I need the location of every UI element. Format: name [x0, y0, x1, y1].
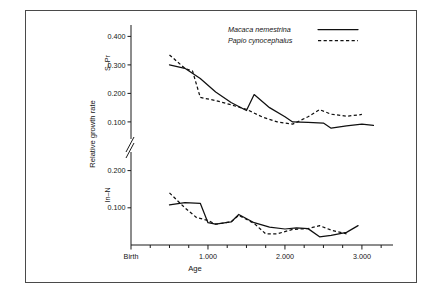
y-tick-label: 0.300	[108, 61, 126, 70]
x-tick-label: 3.000	[353, 252, 371, 261]
x-tick-label: 1.000	[199, 252, 217, 261]
legend-label-1: Papio cynocephalus	[228, 36, 293, 45]
y-tick-label: 0.100	[108, 118, 126, 127]
y-tick-label: 0.200	[108, 89, 126, 98]
y-tick-label: 0.200	[108, 166, 126, 175]
axis-break-marker	[126, 137, 134, 158]
y-tick-label: 0.400	[108, 32, 126, 41]
legend-label-0: Macaca nemestrina	[228, 25, 291, 34]
y-tick-label: 0.100	[108, 203, 126, 212]
tick-labels: 0.4000.3000.2000.1000.2000.100Birth1.000…	[108, 32, 371, 261]
x-axis-title: Age	[188, 264, 202, 273]
lower-panel-label: In–N	[103, 187, 112, 202]
series-dashed	[169, 193, 346, 234]
series-dashed	[169, 55, 361, 124]
x-tick-label: Birth	[124, 252, 139, 261]
growth-rate-chart: Relative growth rate S–Pr In–N 0.4000.30…	[0, 0, 440, 293]
data-series	[169, 55, 373, 237]
series-solid	[169, 65, 373, 128]
axes	[128, 25, 394, 250]
x-tick-label: 2.000	[276, 252, 294, 261]
y-axis-title: Relative growth rate	[88, 100, 97, 168]
legend: Macaca nemestrina Papio cynocephalus	[228, 25, 358, 45]
